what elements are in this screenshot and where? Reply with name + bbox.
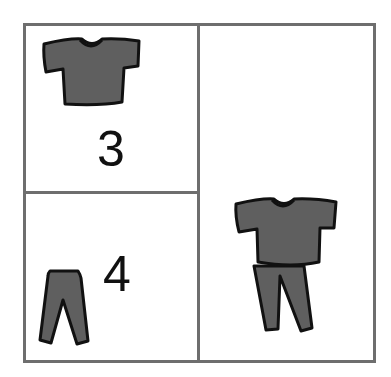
- outfit-icon: [232, 196, 342, 336]
- shirt-count: 3: [97, 124, 125, 174]
- pants-count: 4: [103, 249, 131, 299]
- shirt-icon: [40, 36, 142, 108]
- horizontal-divider: [23, 191, 199, 194]
- pants-icon: [37, 268, 91, 348]
